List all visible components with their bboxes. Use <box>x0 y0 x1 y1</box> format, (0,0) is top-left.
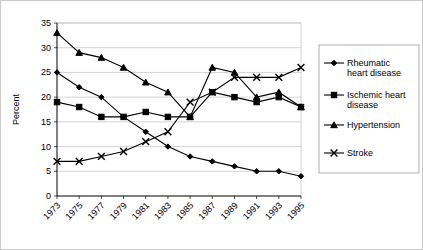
x-tick-label: 1975 <box>63 200 84 221</box>
data-point <box>276 89 283 95</box>
data-point <box>187 99 194 106</box>
y-tick-label: 25 <box>41 67 51 77</box>
data-point <box>165 89 172 95</box>
legend-label-cont: heart disease <box>347 68 401 78</box>
x-tick-label: 1983 <box>152 200 173 221</box>
data-point <box>165 128 172 135</box>
x-tick-label: 1987 <box>196 200 217 221</box>
y-tick-label: 20 <box>41 92 51 102</box>
x-tick-label: 1993 <box>263 200 284 221</box>
data-point <box>276 169 281 174</box>
data-point <box>165 114 170 119</box>
legend-marker-square-icon <box>331 92 336 97</box>
y-tick-label: 15 <box>41 117 51 127</box>
x-tick-label: 1981 <box>130 200 151 221</box>
data-point <box>187 154 192 159</box>
x-tick-label: 1977 <box>86 200 107 221</box>
legend-label-cont: disease <box>347 100 378 110</box>
y-axis-title: Percent <box>11 93 21 125</box>
data-point <box>298 174 303 179</box>
series-hypertension <box>54 30 305 120</box>
x-tick-label: 1991 <box>241 200 262 221</box>
data-point <box>209 64 216 70</box>
data-point <box>121 114 126 119</box>
series-line <box>57 72 301 176</box>
data-point <box>142 79 149 85</box>
series-line <box>57 33 301 117</box>
y-tick-label: 5 <box>46 166 51 176</box>
data-point <box>54 30 61 36</box>
line-chart: 0510152025303519731975197719791981198319… <box>1 1 423 250</box>
plot-area: 0510152025303519731975197719791981198319… <box>1 1 423 250</box>
data-point <box>254 169 259 174</box>
data-point <box>143 109 148 114</box>
data-point <box>210 159 215 164</box>
series-stroke <box>54 64 305 165</box>
y-tick-label: 30 <box>41 43 51 53</box>
data-point <box>142 138 149 145</box>
data-point <box>54 99 59 104</box>
x-tick-label: 1973 <box>41 200 62 221</box>
series-line <box>57 67 301 161</box>
y-tick-label: 35 <box>41 18 51 28</box>
data-point <box>232 164 237 169</box>
y-tick-label: 0 <box>46 191 51 201</box>
legend-label: Ischemic heart <box>347 90 406 100</box>
legend-label: Rheumatic <box>347 58 391 68</box>
x-tick-label: 1979 <box>108 200 129 221</box>
chart-figure: 0510152025303519731975197719791981198319… <box>0 0 423 250</box>
x-tick-label: 1995 <box>285 200 306 221</box>
series-rheumatic-heart-disease <box>54 70 303 179</box>
data-point <box>99 114 104 119</box>
x-tick-label: 1989 <box>219 200 240 221</box>
x-tick-label: 1985 <box>174 200 195 221</box>
legend-label: Hypertension <box>347 120 400 130</box>
legend-label: Stroke <box>347 148 373 158</box>
data-point <box>232 94 237 99</box>
data-point <box>120 64 127 70</box>
data-point <box>76 104 81 109</box>
y-tick-label: 10 <box>41 142 51 152</box>
